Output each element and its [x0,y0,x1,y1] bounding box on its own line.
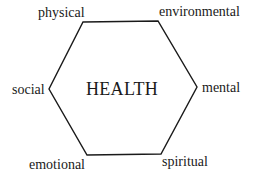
label-spiritual: spiritual [162,155,208,169]
label-emotional: emotional [29,158,85,172]
label-social: social [12,83,45,97]
label-physical: physical [38,6,85,20]
center-title: HEALTH [86,80,158,98]
label-mental: mental [202,81,240,95]
label-environmental: environmental [159,5,240,19]
